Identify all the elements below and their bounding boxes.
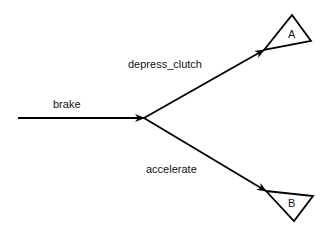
node-label-a: A	[288, 28, 296, 40]
edge-label-depress-clutch: depress_clutch	[128, 58, 202, 70]
edge-label-accelerate: accelerate	[146, 163, 197, 175]
node-a[interactable]: A	[264, 15, 311, 50]
edge-depress-clutch: depress_clutch	[128, 50, 264, 118]
edge-brake: brake	[18, 98, 144, 118]
edge-label-brake: brake	[53, 98, 81, 110]
accelerate-arrow	[144, 118, 266, 191]
node-label-b: B	[288, 197, 295, 209]
diagram-canvas: brake depress_clutch accelerate A B	[0, 0, 329, 237]
node-b[interactable]: B	[266, 191, 313, 221]
edge-accelerate: accelerate	[144, 118, 266, 191]
